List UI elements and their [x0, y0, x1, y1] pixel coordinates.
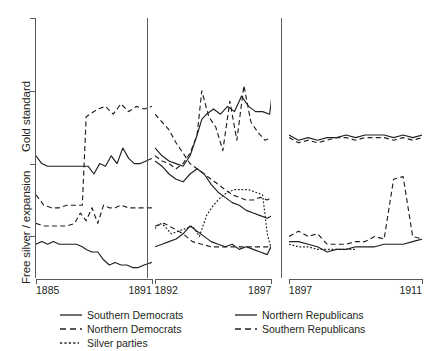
series-line-northern-democrats — [36, 205, 152, 226]
x-axis-label-end: 1911 — [399, 284, 422, 296]
x-axis-line — [289, 279, 422, 280]
panel-1892-1897 — [155, 18, 272, 278]
legend-swatch-dotted-icon — [60, 338, 82, 348]
x-axis-tick — [152, 279, 153, 284]
legend-item-northern-democrats: Northern Democrats — [60, 323, 183, 336]
legend-item-southern-republicans: Southern Republicans — [235, 323, 365, 336]
panel-separator — [147, 18, 148, 278]
series-line-northern-republicans — [155, 96, 272, 166]
panel-plot-area — [36, 18, 152, 278]
series-line-northern-democrats — [36, 104, 152, 208]
series-line-silver-parties — [289, 244, 356, 249]
legend-label: Northern Democrats — [87, 324, 182, 335]
x-axis: 188518911892189718971911 — [0, 279, 428, 305]
y-axis-label-free-silver: Free silver / expansion — [20, 171, 32, 284]
chart-legend: Southern Democrats Northern Democrats Si… — [60, 309, 400, 347]
x-axis-line — [155, 279, 272, 280]
panel-1885-1891 — [36, 18, 152, 278]
legend-item-southern-democrats: Southern Democrats — [60, 309, 183, 322]
series-line-northern-democrats — [155, 223, 272, 246]
series-line-southern-democrats — [36, 148, 152, 174]
legend-label: Silver parties — [87, 338, 148, 349]
panel-separator — [281, 18, 282, 278]
legend-swatch-dashed-icon — [235, 324, 257, 334]
legend-swatch-solid-icon — [235, 310, 257, 320]
x-axis-label-start: 1897 — [289, 284, 312, 296]
x-axis-label-end: 1891 — [128, 284, 151, 296]
legend-swatch-dashed-icon — [60, 324, 82, 334]
series-line-southern-democrats — [36, 242, 152, 268]
legend-column-left: Southern Democrats Northern Democrats Si… — [60, 309, 183, 351]
panel-plot-area — [289, 18, 422, 278]
legend-label: Southern Democrats — [87, 310, 183, 321]
series-line-northern-democrats — [155, 86, 272, 169]
x-axis-label-start: 1892 — [155, 284, 178, 296]
x-axis-line — [36, 279, 152, 280]
series-line-southern-democrats — [155, 161, 272, 218]
legend-column-right: Northern Republicans Southern Republican… — [235, 309, 365, 337]
x-axis-label-end: 1897 — [248, 284, 271, 296]
series-line-southern-democrats — [289, 239, 422, 252]
x-axis-tick — [271, 279, 272, 284]
panel-plot-area — [155, 18, 272, 278]
x-axis-label-start: 1885 — [36, 284, 59, 296]
legend-item-northern-republicans: Northern Republicans — [235, 309, 365, 322]
legend-label: Southern Republicans — [262, 324, 365, 335]
panel-1897-1911 — [289, 18, 422, 278]
series-line-northern-democrats — [289, 177, 422, 245]
legend-swatch-solid-icon — [60, 310, 82, 320]
legend-item-silver-parties: Silver parties — [60, 337, 183, 350]
legend-label: Northern Republicans — [262, 310, 364, 321]
plot-panels — [36, 18, 422, 278]
series-line-southern-democrats — [155, 226, 272, 255]
y-axis-labels: Gold standard Free silver / expansion — [0, 18, 30, 280]
